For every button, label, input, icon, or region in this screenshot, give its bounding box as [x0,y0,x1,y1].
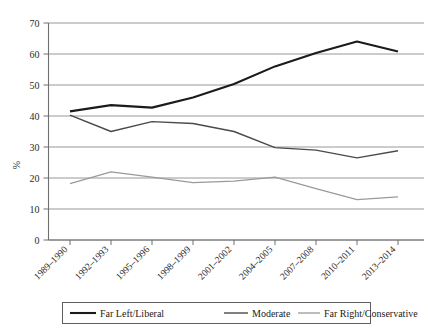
series-line-0 [70,42,398,112]
y-tick-marks [44,23,49,240]
legend-label-0: Far Left/Liberal [100,308,164,319]
data-series [70,42,398,200]
y-tick-label: 50 [30,80,40,91]
y-tick-label: 40 [30,111,40,122]
line-chart: 010203040506070 % 1989–19901992–19931995… [0,0,433,331]
y-tick-label: 20 [30,173,40,184]
legend-entries: Far Left/LiberalModerateFar Right/Conser… [70,308,418,319]
series-line-1 [70,115,398,158]
y-axis-label: % [11,161,22,169]
x-tick-label: 1989–1990 [32,244,69,281]
legend-label-1: Moderate [252,308,291,319]
x-tick-label: 1992–1993 [73,244,110,281]
y-tick-label: 70 [30,18,40,29]
y-tick-label: 30 [30,142,40,153]
chart-figure: 010203040506070 % 1989–19901992–19931995… [0,0,433,331]
y-axis-tick-labels: 010203040506070 [30,18,40,246]
legend-label-2: Far Right/Conservative [324,308,418,319]
y-tick-label: 10 [30,204,40,215]
x-tick-label: 2007–2008 [278,244,315,281]
x-axis-tick-labels: 1989–19901992–19931995–19961998–19992001… [32,244,397,281]
x-tick-label: 2010–2011 [319,244,356,281]
y-tick-label: 0 [35,235,40,246]
x-tick-label: 2001–2002 [196,244,233,281]
x-tick-label: 1995–1996 [114,244,151,281]
series-line-2 [70,172,398,200]
y-tick-label: 60 [30,49,40,60]
x-tick-label: 2004–2005 [237,244,274,281]
x-tick-label: 1998–1999 [155,244,192,281]
gridlines [49,23,425,240]
x-tick-label: 2013–2014 [360,244,397,281]
